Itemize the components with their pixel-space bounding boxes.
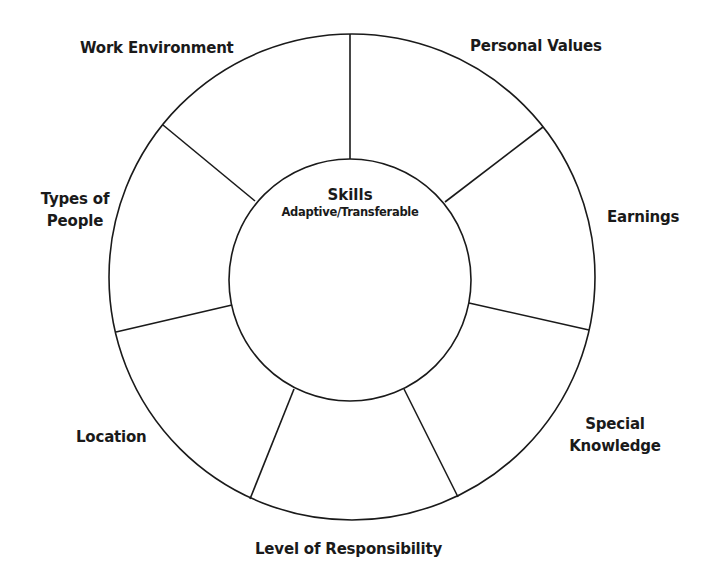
spoke-lower-left xyxy=(250,389,294,499)
outer-ring xyxy=(109,34,595,520)
spoke-upper-right xyxy=(445,127,543,202)
segment-label-line2: Knowledge xyxy=(550,435,680,457)
spoke-lower-right xyxy=(404,389,458,497)
segment-label-work-environment: Work Environment xyxy=(80,37,234,59)
segment-label-line1: Types of xyxy=(20,188,130,210)
center-title: Skills xyxy=(250,186,450,204)
segment-label-types-of-people: Types of People xyxy=(20,188,130,232)
segment-label-line1: Special xyxy=(550,413,680,435)
center-subtitle: Adaptive/Transferable xyxy=(250,205,450,219)
spoke-left xyxy=(116,305,232,332)
spoke-right xyxy=(469,303,589,330)
segment-label-level-of-responsibility: Level of Responsibility xyxy=(255,538,442,560)
segment-label-personal-values: Personal Values xyxy=(470,35,602,57)
segment-label-special-knowledge: Special Knowledge xyxy=(550,413,680,457)
segment-label-location: Location xyxy=(76,426,147,448)
spoke-upper-left xyxy=(163,125,255,201)
segment-label-line2: People xyxy=(20,210,130,232)
segment-label-earnings: Earnings xyxy=(607,206,679,228)
wheel-diagram xyxy=(0,0,712,578)
